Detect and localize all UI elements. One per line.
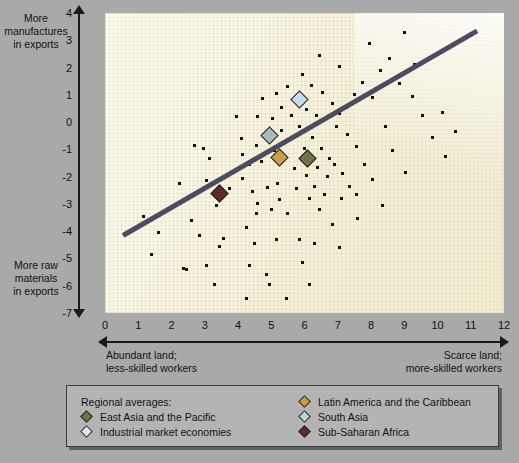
x-axis-tick-12: 12 xyxy=(492,320,516,331)
regional-average-marker xyxy=(299,150,317,168)
y-axis-tick-neg1: -1 xyxy=(48,144,72,155)
y-axis-tick-neg7: -7 xyxy=(48,308,72,319)
x-axis-tick-2: 2 xyxy=(160,320,184,331)
x-axis-caption-right-line-1: Scarce land; xyxy=(406,349,502,362)
y-axis-tick-neg3: -3 xyxy=(48,199,72,210)
x-axis-tick-10: 10 xyxy=(426,320,450,331)
x-axis-tick-6: 6 xyxy=(293,320,317,331)
legend-item-label: Industrial market economies xyxy=(100,426,231,438)
x-axis-caption-right-line-2: more-skilled workers xyxy=(406,362,502,375)
y-axis-tick-3: 3 xyxy=(48,35,72,46)
y-axis-tick-neg4: -4 xyxy=(48,226,72,237)
legend: Regional averages: East Asia and the Pac… xyxy=(66,385,499,447)
x-axis-arrow-line xyxy=(106,341,501,343)
x-axis-caption-left: Abundant land; less-skilled workers xyxy=(106,349,197,375)
y-axis-line xyxy=(78,13,80,313)
y-axis-tick-1: 1 xyxy=(48,90,72,101)
x-axis-caption-left-line-2: less-skilled workers xyxy=(106,362,197,375)
legend-diamond-icon xyxy=(80,410,93,423)
x-axis-tick-9: 9 xyxy=(392,320,416,331)
regional-average-marker xyxy=(290,91,308,109)
legend-item-label: Latin America and the Caribbean xyxy=(318,396,471,408)
y-axis-tick-neg5: -5 xyxy=(48,253,72,264)
legend-column-left: Regional averages: East Asia and the Pac… xyxy=(81,394,296,439)
regional-average-marker xyxy=(270,148,288,166)
x-axis-tick-0: 0 xyxy=(93,320,117,331)
y-axis-tick-neg2: -2 xyxy=(48,172,72,183)
legend-diamond-icon xyxy=(298,410,311,423)
plot-area xyxy=(105,13,504,313)
legend-diamond-icon xyxy=(298,425,311,438)
legend-item[interactable]: Latin America and the Caribbean xyxy=(299,394,499,409)
legend-item[interactable]: South Asia xyxy=(299,409,499,424)
x-axis-arrow-right-icon xyxy=(500,336,509,348)
y-axis-tick-2: 2 xyxy=(48,63,72,74)
y-axis-tick-neg6: -6 xyxy=(48,281,72,292)
x-axis-tick-4: 4 xyxy=(226,320,250,331)
y-axis-arrow-down-icon xyxy=(73,309,85,318)
legend-item[interactable]: East Asia and the Pacific xyxy=(81,409,296,424)
x-axis-caption-left-line-1: Abundant land; xyxy=(106,349,197,362)
y-axis-tick-0: 0 xyxy=(48,117,72,128)
legend-item-label: South Asia xyxy=(318,411,368,423)
x-axis-tick-7: 7 xyxy=(326,320,350,331)
legend-item[interactable]: Sub-Saharan Africa xyxy=(299,424,499,439)
legend-diamond-icon xyxy=(80,425,93,438)
x-axis-tick-5: 5 xyxy=(259,320,283,331)
legend-item-label: Sub-Saharan Africa xyxy=(318,426,409,438)
x-axis-tick-8: 8 xyxy=(359,320,383,331)
regional-average-marker xyxy=(260,127,278,145)
y-axis-tick-4: 4 xyxy=(48,8,72,19)
x-axis-caption-right: Scarce land; more-skilled workers xyxy=(406,349,502,375)
y-axis-caption-bottom: More raw materials in exports xyxy=(0,259,72,298)
legend-item-label: East Asia and the Pacific xyxy=(100,411,216,423)
x-axis-tick-1: 1 xyxy=(126,320,150,331)
legend-item[interactable]: Industrial market economies xyxy=(81,424,296,439)
x-axis-tick-3: 3 xyxy=(193,320,217,331)
legend-column-right: Latin America and the CaribbeanSouth Asi… xyxy=(299,394,499,439)
legend-title: Regional averages: xyxy=(81,394,296,409)
x-axis-tick-11: 11 xyxy=(459,320,483,331)
chart-figure: More manufactures in exports More raw ma… xyxy=(0,0,519,463)
regional-average-marker xyxy=(211,184,229,202)
legend-diamond-icon xyxy=(298,395,311,408)
regional-average-markers-layer xyxy=(105,13,504,313)
